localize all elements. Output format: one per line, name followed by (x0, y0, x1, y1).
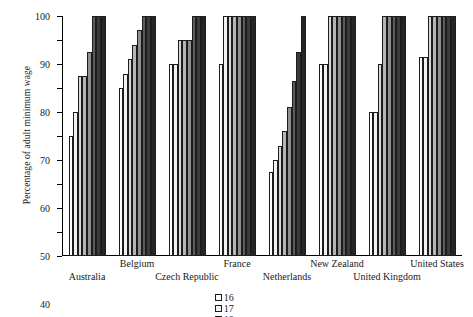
bar (151, 16, 156, 256)
legend-swatch (215, 305, 222, 312)
y-tick-label: 60 (40, 204, 50, 214)
bar-group (169, 16, 206, 256)
bar (351, 16, 356, 256)
plot-area: 0102030405060708090100 (62, 16, 462, 256)
x-axis-label-belgium: Belgium (120, 259, 154, 270)
x-axis-label-france: France (223, 259, 250, 270)
legend-item: 17 (215, 303, 249, 314)
legend-swatch (215, 294, 222, 301)
x-axis-label-new-zealand: New Zealand (310, 259, 364, 270)
y-tick-label: 80 (40, 108, 50, 118)
legend-label: 16 (224, 292, 234, 303)
bar (101, 16, 106, 256)
legend-label: 17 (224, 303, 234, 314)
bar-groups (62, 16, 462, 256)
y-tick-label: 100 (35, 12, 50, 22)
legend: Age: 1617181920212223–65 (years) (0, 292, 473, 317)
bar-group (269, 16, 306, 256)
bar-group (369, 16, 406, 256)
x-axis-label-netherlands: Netherlands (263, 272, 311, 283)
bar (451, 16, 456, 256)
x-axis-label-australia: Australia (69, 272, 106, 283)
bar-group (119, 16, 156, 256)
y-tick-mark: 0 (57, 256, 62, 257)
x-axis-label-united-kingdom: United Kingdom (353, 272, 421, 283)
bar (401, 16, 406, 256)
bar (201, 16, 206, 256)
y-tick-label: 50 (40, 252, 50, 262)
bar-group (69, 16, 106, 256)
y-tick-label: 70 (40, 156, 50, 166)
legend-items: 1617181920212223–65 (215, 292, 256, 317)
y-tick-label: 90 (40, 60, 50, 70)
x-axis-label-czech-republic: Czech Republic (155, 272, 219, 283)
bar-group (219, 16, 256, 256)
legend-item: 16 (215, 292, 249, 303)
y-axis-title: Percentage of adult minimum wage (22, 15, 32, 255)
bar (301, 16, 306, 256)
bar-chart: Percentage of adult minimum wage 0102030… (0, 0, 473, 317)
x-axis-label-united-states: United States (410, 259, 464, 270)
bar-group (419, 16, 456, 256)
bar (251, 16, 256, 256)
bar-group (319, 16, 356, 256)
